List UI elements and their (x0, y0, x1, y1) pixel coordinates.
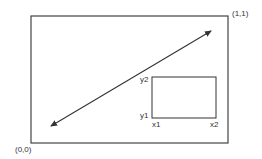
label-y2: y2 (140, 76, 148, 84)
double-arrow (51, 31, 211, 126)
label-x1: x1 (152, 121, 160, 129)
origin-label: (0,0) (15, 146, 31, 154)
corner-label-top-right: (1,1) (232, 10, 248, 18)
inner-rectangle (152, 77, 216, 118)
diagram-canvas (0, 0, 262, 159)
label-y1: y1 (140, 112, 148, 120)
label-x2: x2 (210, 121, 218, 129)
